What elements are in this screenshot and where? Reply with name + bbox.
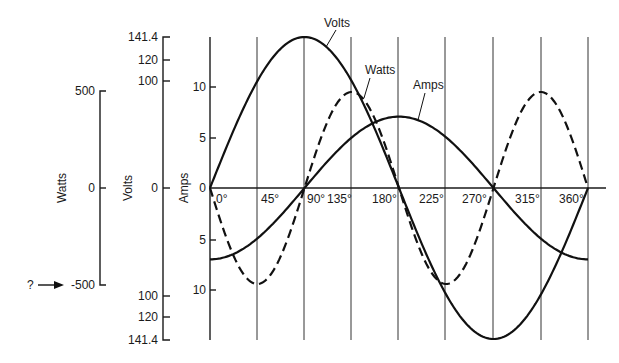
- volts-tick-120: 120: [138, 53, 158, 67]
- volts-tick-141: 141.4: [128, 30, 158, 44]
- deg-360: 360°: [559, 192, 584, 206]
- volts-tick-100: 100: [138, 74, 158, 88]
- volts-axis: 141.4 120 100 0 100 120 141.4 Volts: [121, 30, 170, 347]
- amps-tick-neg10: 10: [193, 283, 207, 297]
- volts-curve-label: Volts: [324, 16, 350, 30]
- deg-45: 45°: [261, 192, 279, 206]
- amps-axis-label: Amps: [177, 173, 191, 204]
- volts-tick-neg141: 141.4: [128, 333, 158, 347]
- amps-tick-0: 0: [199, 181, 206, 195]
- amps-tick-neg5: 5: [199, 233, 206, 247]
- watts-tick-neg500: -500: [71, 278, 95, 292]
- deg-315: 315°: [515, 192, 540, 206]
- volts-axis-label: Volts: [121, 175, 135, 201]
- amps-tick-10: 10: [193, 80, 207, 94]
- watts-axis: 500 0 -500 Watts: [55, 84, 106, 292]
- question-mark: ?: [27, 278, 34, 292]
- chart-canvas: 500 0 -500 Watts ? 141.4 120 100 0 100 1…: [0, 0, 619, 363]
- deg-0: 0°: [216, 192, 228, 206]
- question-arrow: ?: [27, 278, 64, 292]
- watts-curve-label: Watts: [365, 63, 395, 77]
- amps-tick-5: 5: [199, 131, 206, 145]
- deg-225: 225°: [419, 192, 444, 206]
- volts-tick-neg100: 100: [138, 289, 158, 303]
- amps-curve-label: Amps: [413, 78, 444, 92]
- deg-90: 90°: [307, 192, 325, 206]
- volts-tick-neg120: 120: [138, 310, 158, 324]
- volts-tick-0: 0: [151, 181, 158, 195]
- deg-270: 270°: [462, 192, 487, 206]
- watts-tick-500: 500: [75, 84, 95, 98]
- watts-axis-label: Watts: [55, 173, 69, 203]
- watts-tick-0: 0: [88, 181, 95, 195]
- deg-135: 135°: [327, 192, 352, 206]
- degree-labels: 0° 45° 90° 135° 180° 225° 270° 315° 360°: [216, 192, 584, 206]
- deg-180: 180°: [372, 192, 397, 206]
